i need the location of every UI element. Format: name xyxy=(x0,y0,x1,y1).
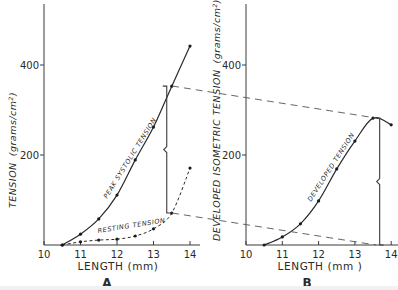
panel-b-y-ticks: 200400 xyxy=(222,60,246,161)
panel-a-x-axis-label: LENGTH (mm) xyxy=(78,260,159,272)
bottom-strip xyxy=(0,286,398,290)
resting-data-point xyxy=(115,238,118,241)
developed-tension-label: DEVELOPED TENSION xyxy=(306,131,357,203)
x-tick-label: 10 xyxy=(240,249,253,260)
developed-data-point xyxy=(353,139,356,142)
x-tick-label: 10 xyxy=(38,249,51,260)
x-tick-label: 12 xyxy=(312,249,325,260)
y-tick-label: 400 xyxy=(20,60,39,71)
developed-tension-curve xyxy=(264,118,391,245)
figure: 1011121314 200400 TENSION(grams/cm2) LEN… xyxy=(0,0,398,290)
developed-data-point xyxy=(263,243,266,246)
panel-b-developed-bracket xyxy=(376,118,384,245)
y-tick-label: 400 xyxy=(222,60,241,71)
resting-data-point xyxy=(79,240,82,243)
x-tick-label: 14 xyxy=(184,249,197,260)
peak-systolic-data-point xyxy=(79,233,82,236)
panel-b: 1011121314 200400 DEVELOPED ISOMETRIC TE… xyxy=(211,0,398,290)
panel-b-y-axis-label: DEVELOPED ISOMETRIC TENSION(grams/cm2) xyxy=(211,0,222,241)
lower-guide-line xyxy=(172,213,376,245)
resting-tension-label: RESTING TENSION xyxy=(97,216,166,235)
resting-data-point xyxy=(188,166,191,169)
peak-systolic-data-point xyxy=(97,217,100,220)
resting-data-point xyxy=(134,234,137,237)
developed-data-point xyxy=(390,123,393,126)
x-tick-label: 13 xyxy=(349,249,362,260)
panel-a-y-ticks: 200400 xyxy=(20,60,44,161)
developed-data-point xyxy=(281,235,284,238)
y-tick-label: 200 xyxy=(222,150,241,161)
x-tick-label: 14 xyxy=(385,249,398,260)
x-tick-label: 12 xyxy=(111,249,124,260)
peak-systolic-tension-label: PEAK SYSTOLIC TENSION xyxy=(102,116,159,200)
y-tick-label: 200 xyxy=(20,150,39,161)
x-tick-label: 11 xyxy=(276,249,289,260)
peak-systolic-data-point xyxy=(115,193,118,196)
x-tick-label: 13 xyxy=(147,249,160,260)
upper-guide-line xyxy=(172,86,376,118)
resting-data-point xyxy=(61,243,64,246)
developed-data-point xyxy=(299,222,302,225)
panel-a: 1011121314 200400 TENSION(grams/cm2) LEN… xyxy=(7,4,200,290)
panel-a-y-axis-label: TENSION(grams/cm2) xyxy=(7,92,18,208)
developed-data-point xyxy=(335,167,338,170)
peak-systolic-data-point xyxy=(188,45,191,48)
x-tick-label: 11 xyxy=(74,249,87,260)
resting-data-point xyxy=(152,227,155,230)
developed-tension-points xyxy=(263,117,393,247)
peak-systolic-tension-points xyxy=(61,45,192,247)
panel-b-x-axis-label: LENGTH (mm ) xyxy=(278,260,363,272)
resting-data-point xyxy=(97,238,100,241)
developed-data-point xyxy=(317,199,320,202)
